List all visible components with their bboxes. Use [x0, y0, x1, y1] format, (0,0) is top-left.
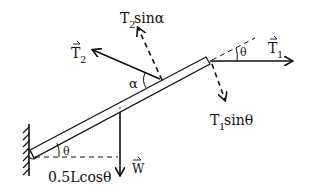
t2-sin-alpha-arrow — [138, 28, 162, 80]
t2-sin-alpha-label: T 2 sinα — [120, 10, 165, 30]
t1-sin-theta-label: T 1 sinθ — [210, 112, 253, 132]
svg-text:2: 2 — [80, 54, 86, 65]
t1-sin-theta-arrow — [212, 64, 225, 100]
svg-text:W: W — [132, 162, 145, 176]
theta-arc-top — [236, 48, 237, 61]
svg-text:1: 1 — [277, 49, 283, 60]
alpha-label: α — [129, 76, 138, 91]
moment-arm-label: 0.5Lcosθ — [48, 169, 111, 185]
wall — [23, 124, 29, 176]
t1-label: T 1 — [268, 36, 283, 60]
theta-label-top: θ — [240, 46, 247, 59]
alpha-arc — [144, 73, 146, 88]
weight-label: W — [132, 157, 145, 176]
beam-diagram: T 2 T 2 sinα α T 1 θ T 1 sinθ θ W 0.5Lco… — [0, 0, 309, 194]
theta-label-bottom: θ — [63, 145, 70, 158]
svg-text:sinθ: sinθ — [224, 112, 253, 128]
svg-text:sinα: sinα — [134, 10, 165, 26]
t2-label: T 2 — [71, 41, 86, 65]
beam-extension-dashed — [212, 38, 255, 60]
